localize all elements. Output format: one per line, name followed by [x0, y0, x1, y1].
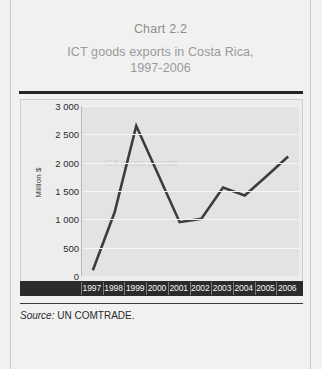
y-axis-tick-labels: 05001 0001 5002 0002 5003 000 [33, 104, 79, 276]
y-tick-label: 0 [33, 271, 79, 282]
gridline [82, 219, 299, 220]
title-divider-rule [19, 91, 303, 94]
chart-title: ICT goods exports in Costa Rica, 1997-20… [25, 44, 296, 76]
x-axis-band: 1997199819992000200120022003200420052006 [20, 281, 303, 296]
y-tick-label: 1 500 [33, 186, 79, 197]
y-tick-label: 500 [33, 242, 79, 253]
chart-number: Chart 2.2 [11, 22, 310, 36]
y-tick-label: 1 000 [33, 214, 79, 225]
x-tick-label: 2005 [256, 283, 275, 293]
gridline [82, 163, 299, 164]
figure-content: Chart 2.2 ICT goods exports in Costa Ric… [11, 0, 310, 369]
chart-title-line-1: ICT goods exports in Costa Rica, [25, 44, 296, 60]
x-tick-label: 2000 [148, 283, 167, 293]
x-tick-label: 2002 [191, 283, 210, 293]
x-tick-label: 2003 [213, 283, 232, 293]
gridline [82, 248, 299, 249]
x-tick-label: 1997 [83, 283, 102, 293]
x-tick-label: 2001 [169, 283, 188, 293]
source-note: Source: UN COMTRADE. [20, 310, 134, 321]
source-label: Source: [20, 310, 54, 321]
y-tick-label: 2 500 [33, 129, 79, 140]
x-tick-label: 2004 [234, 283, 253, 293]
x-tick-label: 1999 [126, 283, 145, 293]
y-tick-label: 2 000 [33, 157, 79, 168]
gridline [82, 134, 299, 135]
figure-page: Chart 2.2 ICT goods exports in Costa Ric… [0, 0, 322, 369]
gridline [82, 106, 299, 107]
y-tick-label: 3 000 [33, 101, 79, 112]
plot-area: ICT goods exports [81, 106, 299, 276]
gridline [82, 191, 299, 192]
page-border-right [310, 0, 311, 369]
chart-plot-frame: Million $ 05001 0001 5002 0002 5003 000 … [20, 99, 303, 295]
x-tick-label: 1998 [104, 283, 123, 293]
chart-title-line-2: 1997-2006 [25, 60, 296, 76]
source-text: UN COMTRADE. [57, 310, 134, 321]
source-divider-rule [20, 303, 303, 304]
x-tick-label: 2006 [278, 283, 297, 293]
